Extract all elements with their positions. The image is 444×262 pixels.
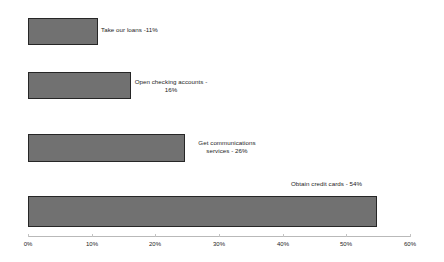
x-axis-tick-mark — [283, 234, 284, 237]
horizontal-bar-chart: Take our loans -11% Open checking accoun… — [0, 0, 444, 262]
bar-get-communications-services — [28, 134, 185, 162]
x-axis-tick-label: 0% — [24, 241, 33, 247]
bar-label-obtain-credit-cards: Obtain credit cards - 54% — [291, 180, 362, 188]
bar-obtain-credit-cards — [28, 196, 377, 227]
bar-take-our-loans — [28, 18, 98, 45]
bar-label-open-checking-accounts: Open checking accounts - 16% — [134, 78, 208, 94]
x-axis-tick-mark — [92, 234, 93, 237]
x-axis-tick-mark — [28, 234, 29, 237]
bar-row: Open checking accounts - 16% — [0, 72, 444, 99]
x-axis-tick-mark — [155, 234, 156, 237]
bar-row: Obtain credit cards - 54% — [0, 196, 444, 227]
bar-open-checking-accounts — [28, 72, 131, 99]
bar-label-take-our-loans: Take our loans -11% — [101, 26, 158, 34]
x-axis-tick-label: 40% — [277, 241, 289, 247]
bar-row: Take our loans -11% — [0, 18, 444, 45]
x-axis-tick-label: 30% — [213, 241, 225, 247]
x-axis-tick-mark — [346, 234, 347, 237]
plot-area: Take our loans -11% Open checking accoun… — [0, 0, 444, 262]
x-axis-tick-label: 20% — [149, 241, 161, 247]
x-axis-tick-mark — [410, 234, 411, 237]
x-axis-tick-label: 10% — [86, 241, 98, 247]
x-axis-tick-label: 60% — [404, 241, 416, 247]
x-axis-tick-mark — [219, 234, 220, 237]
x-axis-tick-label: 50% — [340, 241, 352, 247]
bar-row: Get communications services - 26% — [0, 134, 444, 162]
bar-label-get-communications-services: Get communications services - 26% — [190, 139, 264, 155]
